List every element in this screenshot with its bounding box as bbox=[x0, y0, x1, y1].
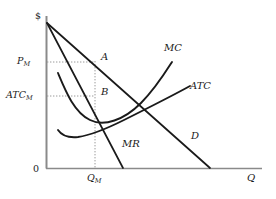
x-tick-quantity-monopoly-sub: M bbox=[95, 177, 102, 185]
marginal-cost-curve bbox=[58, 62, 172, 123]
origin-label: 0 bbox=[33, 164, 39, 174]
y-tick-atc-monopoly-base: ATC bbox=[6, 89, 26, 100]
point-label-a: A bbox=[101, 52, 108, 62]
curve-label-mc: MC bbox=[164, 43, 182, 53]
curve-label-d: D bbox=[191, 131, 199, 141]
y-axis-label: $ bbox=[35, 11, 41, 21]
average-total-cost-curve bbox=[58, 86, 190, 137]
curve-label-mr: MR bbox=[122, 139, 140, 149]
point-label-b: B bbox=[101, 87, 108, 97]
diagram-canvas bbox=[0, 0, 276, 199]
curve-label-atc: ATC bbox=[190, 81, 211, 91]
x-tick-quantity-monopoly-base: Q bbox=[87, 172, 95, 183]
marginal-revenue-curve bbox=[47, 23, 123, 168]
y-tick-atc-monopoly: ATCM bbox=[6, 90, 33, 101]
y-tick-price-monopoly-sub: M bbox=[23, 60, 30, 68]
monopoly-diagram: $ Q 0 PM ATCM QM MC ATC D MR A B bbox=[0, 0, 276, 199]
y-tick-atc-monopoly-sub: M bbox=[26, 94, 33, 102]
y-tick-price-monopoly: PM bbox=[17, 56, 30, 67]
x-tick-quantity-monopoly: QM bbox=[87, 173, 101, 184]
x-axis-label: Q bbox=[247, 173, 255, 183]
